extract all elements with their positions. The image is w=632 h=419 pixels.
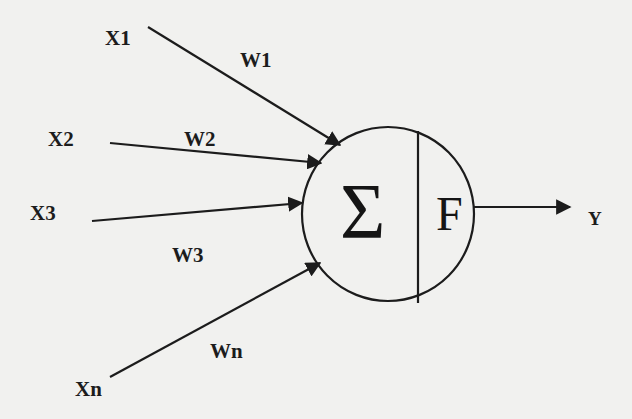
connection-x3-arrow [92, 203, 302, 221]
weight-label-w3: W3 [172, 245, 204, 266]
input-label-x2: X2 [48, 129, 74, 150]
weight-label-w2: W2 [184, 129, 216, 150]
input-label-x1: X1 [105, 28, 131, 49]
weight-label-wn: Wn [210, 341, 243, 362]
summation-symbol: Σ [340, 172, 385, 250]
activation-function-symbol: F [436, 190, 463, 238]
diagram-graphics [0, 0, 632, 419]
input-label-xn: Xn [75, 379, 102, 400]
connection-x1-arrow [148, 27, 340, 145]
connection-x2-arrow [110, 143, 321, 163]
weight-label-w1: W1 [240, 50, 272, 71]
neuron-diagram: X1 X2 X3 Xn W1 W2 W3 Wn Σ F Y [0, 0, 632, 419]
input-label-x3: X3 [30, 203, 56, 224]
output-label-y: Y [588, 209, 602, 228]
